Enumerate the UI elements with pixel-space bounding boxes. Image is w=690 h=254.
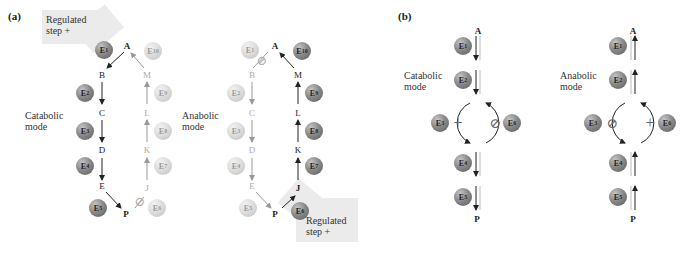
enzyme-e5: E5 [609,188,627,206]
metabolite-p: P [474,214,480,224]
inhibited-symbol: ⊘ [257,53,268,69]
metabolite-a: A [272,41,279,51]
metabolite-l: L [144,108,150,118]
catabolic-mode-label: Catabolic mode [404,70,442,92]
catabolic-mode-label: Catabolic mode [25,110,63,132]
metabolite-a: A [630,26,637,36]
enzyme-e10: E10 [293,42,311,60]
enzyme-e5: E5 [454,188,472,206]
metabolite-j: J [145,183,149,193]
enzyme-e10: E10 [144,42,162,60]
panel-b-label: (b) [398,10,411,22]
metabolite-d: D [249,145,256,155]
metabolite-p: P [123,209,129,219]
enzyme-e1: E1 [241,41,259,59]
enzyme-e6: E6 [291,202,309,220]
metabolite-d: D [99,145,106,155]
metabolite-e: E [99,181,105,191]
inhibitor-symbol: ⊘ [606,115,618,132]
enzyme-e2: E2 [609,71,627,89]
metabolite-l: L [295,108,301,118]
metabolite-a: A [475,26,482,36]
metabolite-c: C [99,108,105,118]
enzyme-e3: E3 [584,114,602,132]
metabolite-m: M [294,70,302,80]
activator-symbol: + [453,114,462,132]
enzyme-e4: E4 [76,157,94,175]
inhibited-symbol: ⊘ [135,194,146,210]
metabolite-m: M [143,70,151,80]
enzyme-e2: E2 [76,84,94,102]
enzyme-e5: E5 [89,199,107,217]
anabolic-mode-label: Anabolic mode [560,70,597,92]
enzyme-e4: E4 [227,157,245,175]
enzyme-e1: E1 [609,37,627,55]
enzyme-e7: E7 [154,157,172,175]
metabolite-k: K [144,145,151,155]
metabolite-b: B [99,70,105,80]
metabolite-c: C [249,108,255,118]
enzyme-e4: E4 [454,154,472,172]
enzyme-e3: E3 [227,122,245,140]
enzyme-e3: E3 [431,114,449,132]
enzyme-e5: E5 [239,199,257,217]
enzyme-e6: E6 [658,114,676,132]
enzyme-e8: E8 [154,122,172,140]
metabolite-j: J [296,183,301,193]
metabolite-a: A [124,41,131,51]
enzyme-e7: E7 [305,157,323,175]
enzyme-e1: E1 [454,37,472,55]
inhibitor-symbol: ⊘ [489,115,501,132]
metabolite-e: E [249,181,255,191]
metabolite-k: K [295,145,302,155]
enzyme-e4: E4 [609,154,627,172]
metabolite-b: B [249,70,255,80]
enzyme-e6: E6 [503,114,521,132]
metabolite-p: P [272,209,278,219]
enzyme-e6: E6 [148,199,166,217]
enzyme-e3: E3 [76,122,94,140]
enzyme-e1: E1 [95,41,113,59]
metabolite-p: P [630,214,636,224]
enzyme-e2: E2 [454,71,472,89]
anabolic-mode-label: Anabolic mode [182,110,219,132]
enzyme-e9: E9 [305,84,323,102]
activator-symbol: + [645,114,654,132]
enzyme-e8: E8 [305,122,323,140]
enzyme-e2: E2 [227,84,245,102]
enzyme-e9: E9 [154,84,172,102]
